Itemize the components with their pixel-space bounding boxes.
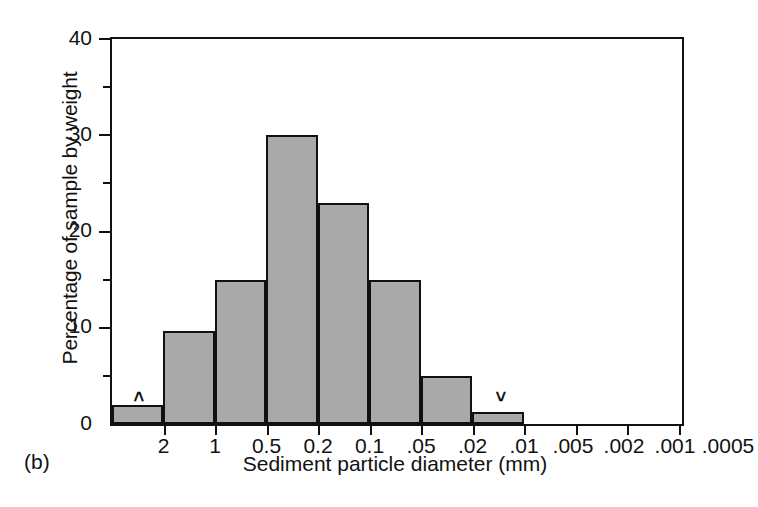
y-tick-label-0: 0	[32, 412, 92, 433]
bar-series	[112, 39, 682, 424]
panel-label: (b)	[24, 450, 50, 474]
y-tick-20	[99, 231, 112, 233]
bar-bin-7	[472, 412, 523, 425]
x-axis-title: Sediment particle diameter (mm)	[110, 452, 680, 476]
y-tick-label-40: 40	[32, 27, 92, 48]
bar-bin-6	[421, 376, 472, 424]
y-tick-label-30: 30	[32, 123, 92, 144]
bar-bin-0	[112, 405, 163, 424]
bar-bin-5	[369, 280, 420, 424]
bar-bin-1	[163, 331, 214, 424]
bar-bin-2	[215, 280, 266, 424]
y-tick-label-10: 10	[32, 315, 92, 336]
y-tick-35	[103, 86, 112, 88]
bar-bin-4	[318, 203, 369, 424]
y-tick-15	[103, 279, 112, 281]
less-than-annotation: <	[491, 387, 510, 407]
plot-area: 40 30 20 10 0 > <	[110, 37, 684, 426]
y-tick-10	[99, 327, 112, 329]
y-tick-40	[99, 38, 112, 40]
y-tick-5	[103, 375, 112, 377]
bar-bin-3	[266, 135, 317, 424]
y-tick-25	[103, 182, 112, 184]
y-tick-30	[99, 134, 112, 136]
greater-than-annotation: >	[129, 387, 148, 407]
x-tick-label-.0005: .0005	[688, 435, 758, 456]
y-tick-label-20: 20	[32, 219, 92, 240]
